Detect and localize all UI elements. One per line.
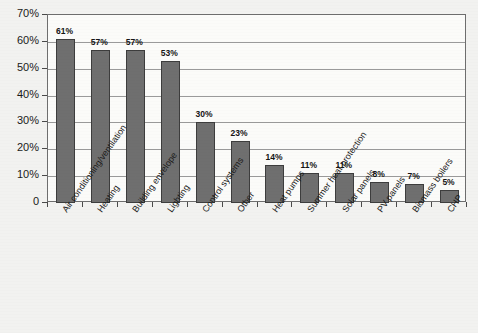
y-axis-tick-label: 10%	[1, 169, 39, 180]
gridline	[48, 122, 465, 123]
y-axis-tick-label: 40%	[1, 89, 39, 100]
y-axis-tick-label: 50%	[1, 62, 39, 73]
bar-value-label: 23%	[221, 129, 257, 138]
y-axis-tick-label: 0	[1, 196, 39, 207]
x-axis-tick-mark	[326, 202, 327, 207]
y-axis-tick-label: 20%	[1, 142, 39, 153]
y-axis-tick-label: 60%	[1, 35, 39, 46]
x-axis-tick-mark	[222, 202, 223, 207]
bar-value-label: 57%	[81, 38, 117, 47]
bar-value-label: 53%	[151, 49, 187, 58]
x-axis-tick-mark	[257, 202, 258, 207]
bar	[56, 39, 75, 203]
y-axis-tick-label: 70%	[1, 8, 39, 19]
x-axis-tick-mark	[187, 202, 188, 207]
x-axis-tick-mark	[82, 202, 83, 207]
x-axis-tick-mark	[291, 202, 292, 207]
x-axis-tick-mark	[431, 202, 432, 207]
x-axis-tick-mark	[396, 202, 397, 207]
gridline	[48, 96, 465, 97]
x-axis-tick-mark	[466, 202, 467, 207]
bar	[126, 50, 145, 203]
x-axis-tick-mark	[361, 202, 362, 207]
gridline	[48, 69, 465, 70]
y-axis-tick-label: 30%	[1, 115, 39, 126]
bar-value-label: 57%	[116, 38, 152, 47]
bar-value-label: 61%	[46, 27, 82, 36]
bar-value-label: 30%	[186, 110, 222, 119]
x-axis-tick-mark	[152, 202, 153, 207]
bar	[91, 50, 110, 203]
x-axis-tick-mark	[117, 202, 118, 207]
bar-chart: 010%20%30%40%50%60%70% 61%57%57%53%30%23…	[0, 0, 478, 333]
bar-value-label: 14%	[256, 153, 292, 162]
x-axis-tick-mark	[47, 202, 48, 207]
bar	[161, 61, 180, 203]
